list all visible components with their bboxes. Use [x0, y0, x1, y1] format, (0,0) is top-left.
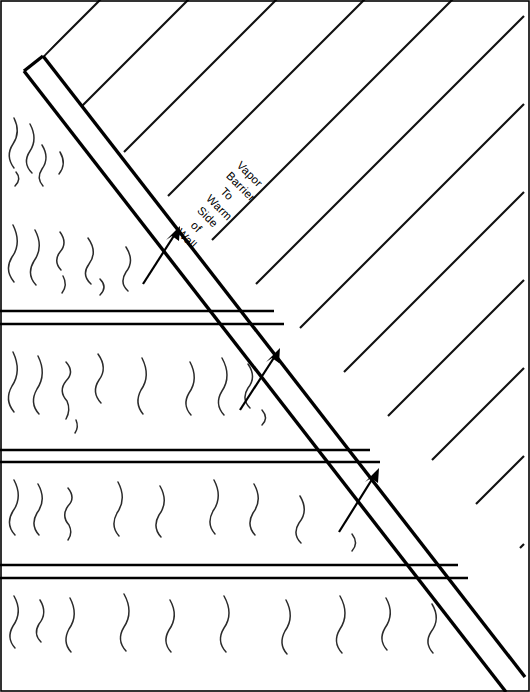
arrow-shaft: [143, 231, 177, 284]
callout-line-5: of: [189, 219, 205, 235]
hatch-line: [344, 192, 524, 372]
insulation-squiggle: [138, 358, 146, 414]
insulation-squiggle: [428, 604, 436, 653]
insulation-squiggle: [75, 420, 77, 433]
hatch-line: [124, 0, 322, 152]
vapor-barrier-callout: Vapor Barrier To Warm Side of Wall: [171, 159, 269, 257]
framing-hatch-group: [36, 0, 524, 548]
insulation-squiggle: [218, 358, 227, 415]
insulation-squiggle: [296, 496, 304, 543]
insulation-squiggle: [15, 172, 19, 186]
insulation-squiggle: [262, 410, 266, 425]
insulation-squiggle: [166, 600, 174, 652]
insulation-squiggle: [8, 225, 17, 282]
insulation-squiggle: [382, 598, 390, 650]
insulation-squiggle: [62, 362, 70, 419]
insulation-squiggle: [9, 480, 18, 535]
insulation-squiggle: [8, 352, 17, 412]
arrow-shaft: [240, 353, 277, 410]
insulation-squiggle: [39, 145, 46, 186]
vapor-barrier-end-cap: [24, 56, 43, 71]
hatch-line: [388, 280, 524, 416]
insulation-squiggle: [186, 362, 194, 415]
insulation-squiggle: [65, 488, 72, 540]
hatch-line: [300, 104, 524, 328]
insulation-squiggle: [36, 600, 43, 642]
wall-section-diagram: Vapor Barrier To Warm Side of Wall: [0, 0, 530, 692]
insulation-squiggle: [34, 484, 42, 535]
insulation-squiggle-group: [8, 118, 436, 654]
insulation-squiggle: [10, 596, 18, 648]
insulation-squiggle: [85, 238, 93, 284]
insulation-squiggle: [220, 596, 229, 652]
insulation-squiggle: [336, 596, 345, 653]
hatch-line: [212, 0, 498, 240]
insulation-squiggle: [120, 594, 129, 651]
insulation-squiggle: [66, 598, 74, 652]
insulation-squiggle: [26, 124, 34, 173]
insulation-squiggle: [59, 152, 63, 174]
hatch-line: [256, 16, 524, 284]
band-separator-group: [0, 311, 468, 578]
insulation-squiggle: [156, 486, 164, 537]
vapor-barrier-outer-line: [24, 71, 506, 692]
insulation-squiggle: [62, 276, 65, 293]
insulation-squiggle: [100, 279, 104, 295]
flow-arrow-upper: [143, 226, 180, 284]
insulation-squiggle: [9, 118, 17, 168]
insulation-squiggle: [33, 356, 42, 414]
hatch-line: [432, 368, 524, 460]
insulation-squiggle: [210, 480, 218, 534]
hatch-line: [476, 456, 524, 504]
insulation-squiggle: [30, 230, 39, 285]
insulation-squiggle: [123, 247, 131, 291]
hatch-line: [520, 544, 524, 548]
insulation-squiggle: [95, 354, 103, 403]
insulation-squiggle: [352, 534, 356, 551]
insulation-squiggle: [250, 484, 258, 535]
hatch-line: [80, 0, 234, 108]
insulation-squiggle: [57, 232, 64, 270]
vapor-barrier-inner-line: [43, 56, 525, 677]
insulation-squiggle: [282, 600, 290, 654]
hatch-line: [36, 0, 146, 64]
diagram-canvas: Vapor Barrier To Warm Side of Wall: [0, 0, 530, 692]
insulation-squiggle: [114, 482, 122, 536]
vapor-barrier-band: [24, 56, 525, 692]
